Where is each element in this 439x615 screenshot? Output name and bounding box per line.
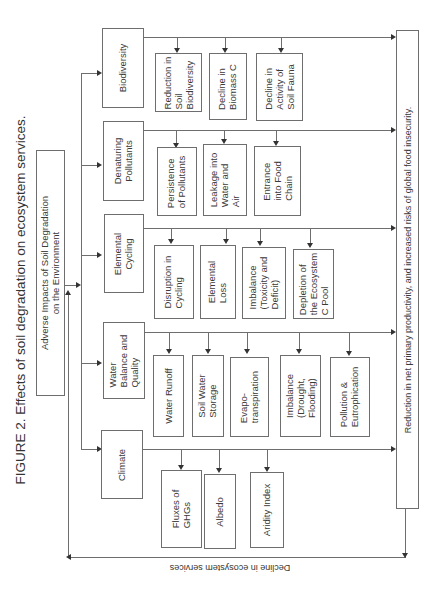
arrow-water-to-outcome	[391, 329, 396, 335]
arrow-to-elemental-cycling	[97, 252, 102, 258]
effect-label: Fluxes of GHGs	[171, 490, 193, 529]
label-line: Deficit)	[269, 257, 280, 310]
branch-denaturing-pollutants	[144, 130, 392, 131]
label-line: (Drought,	[295, 374, 306, 418]
effect-box-depletion-ecosystem-c-pool: Depletion of the Ecosystem C Pool	[293, 249, 334, 319]
drop-line	[260, 228, 261, 242]
effect-label: Aridity Index	[262, 484, 273, 536]
label-line: Biomass C	[228, 64, 239, 110]
label-line: C Pool	[319, 253, 330, 315]
label-line: Depletion of	[297, 253, 308, 315]
label-line: Eutrophication	[350, 367, 361, 428]
branch-water-balance	[145, 332, 392, 333]
effect-box-albedo: Albedo	[204, 474, 236, 549]
effect-label: Soil Water Storage	[197, 374, 219, 417]
category-box-biodiversity: Biodiversity	[102, 28, 144, 108]
effect-box-soil-water-storage: Soil Water Storage	[192, 355, 224, 437]
branch-elemental-cycling	[144, 228, 392, 229]
outcome-label: Reduction in net primary productivity, a…	[402, 106, 412, 432]
category-box-water-balance-quality: Water Balance and Quality	[103, 322, 145, 399]
drop-line	[349, 332, 350, 352]
effect-box-entrance-food-chain: Entrance into Food Chain	[254, 146, 301, 216]
drop-arrow	[166, 349, 172, 354]
category-label-water-balance-quality: Water Balance and Quality	[108, 334, 141, 387]
effect-label: Evapo- transpiration	[239, 371, 261, 423]
effect-box-fluxes-ghgs: Fluxes of GHGs	[161, 470, 202, 548]
feedback-bottom-line	[68, 557, 406, 558]
label-line: Climate	[117, 448, 128, 480]
arrow-elemental-to-outcome	[391, 225, 396, 231]
effect-label: Reduction in Soil Biodiversity	[162, 56, 195, 109]
effect-label: Imbalance (Toxicity and Deficit)	[248, 257, 281, 310]
drop-arrow	[223, 239, 229, 244]
drop-arrow	[205, 349, 211, 354]
drop-line	[247, 332, 248, 350]
root-label-line2: on the Environment	[51, 196, 62, 350]
effect-box-aridity-index: Aridity Index	[250, 472, 284, 548]
label-line: Cycling	[124, 232, 135, 274]
effect-label: Persistence of Pollutants	[166, 155, 188, 207]
label-line: the Ecosystem	[308, 253, 319, 315]
trunk-line	[81, 73, 82, 450]
label-line: Soil Fauna	[285, 64, 296, 109]
effect-box-pollution-eutrophication: Pollution & Eutrophication	[330, 357, 370, 437]
root-box: Adverse Impacts of Soil Degradation on t…	[36, 150, 65, 396]
arrow-to-denaturing-pollutants	[97, 162, 102, 168]
arrow-climate-to-outcome	[391, 446, 396, 452]
effect-box-reduction-soil-biodiversity: Reduction in Soil Biodiversity	[155, 53, 202, 112]
feedback-arrow-up	[65, 290, 71, 295]
label-line: Quality	[129, 334, 140, 387]
figure-title: FIGURE 2. Effects of soil degradation on…	[13, 116, 28, 485]
effect-box-decline-biomass-c: Decline in Biomass C	[209, 53, 247, 120]
branch-biodiversity	[144, 37, 392, 38]
label-line: Albedo	[215, 497, 226, 527]
arrow-biodiversity-to-outcome	[391, 34, 396, 40]
outcome-box: Reduction in net primary productivity, a…	[396, 30, 419, 509]
effect-box-water-runoff: Water Runoff	[153, 355, 184, 437]
effect-label: Water Runoff	[163, 368, 174, 423]
effect-label: Leakage into Water and Air	[209, 153, 242, 207]
root-label-line1: Adverse Impacts of Soil Degradation	[40, 196, 51, 350]
label-line: Biodiversity	[184, 56, 195, 109]
effect-label: Disruption in Cycling	[163, 256, 185, 309]
effect-label: Decline in Activity of Soil Fauna	[263, 64, 296, 109]
label-line: Air	[230, 153, 241, 207]
label-line: Flooding)	[306, 374, 317, 418]
outcome-down-line	[405, 508, 406, 557]
effect-box-elemental-loss: Elemental Loss	[200, 245, 236, 319]
label-line: Fluxes of	[171, 490, 182, 529]
category-box-elemental-cycling: Elemental Cycling	[104, 214, 144, 293]
effect-box-evapotranspiration: Evapo- transpiration	[230, 357, 269, 437]
label-line: Cycling	[174, 256, 185, 309]
feedback-label: Decline in ecosystem services	[170, 563, 291, 573]
label-line: transpiration	[250, 371, 261, 423]
label-line: Decline in	[263, 64, 274, 109]
effect-label: Pollution & Eutrophication	[339, 367, 361, 428]
arrow-to-water-balance	[97, 360, 102, 366]
root-label: Adverse Impacts of Soil Degradation on t…	[40, 196, 62, 350]
effect-box-disruption-cycling: Disruption in Cycling	[154, 245, 194, 319]
drop-arrow	[244, 349, 250, 354]
label-line: Activity of	[274, 64, 285, 109]
category-label-denaturing-pollutants: Denaturing Pollutants	[113, 138, 135, 184]
label-line: Pollutants	[124, 138, 135, 184]
effect-label: Entrance into Food Chain	[261, 161, 294, 201]
label-line: Entrance	[261, 161, 272, 201]
effect-label: Imbalance (Drought, Flooding)	[284, 374, 317, 418]
effect-label: Albedo	[215, 497, 226, 527]
label-line: Loss	[218, 261, 229, 303]
label-line: Reduction in	[162, 56, 173, 109]
feedback-vertical-line	[68, 293, 69, 558]
drop-line	[176, 130, 177, 144]
feedback-arrow-left	[66, 554, 71, 560]
label-line: of Pollutants	[177, 155, 188, 207]
label-line: Soil	[173, 56, 184, 109]
drop-line	[219, 449, 220, 469]
category-box-climate: Climate	[101, 430, 143, 499]
drop-line	[181, 449, 182, 466]
category-label-climate: Climate	[117, 448, 128, 480]
drop-line	[267, 449, 268, 468]
drop-line	[169, 332, 170, 350]
effect-box-persistence-pollutants: Persistence of Pollutants	[157, 147, 197, 216]
drop-arrow	[296, 349, 302, 354]
